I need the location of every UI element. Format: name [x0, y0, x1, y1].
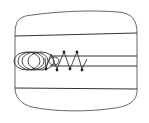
- stitch-diagram: [0, 0, 149, 123]
- stitch-node: [76, 51, 79, 54]
- stitch-node: [81, 69, 84, 72]
- stitch-node: [56, 69, 59, 72]
- stitch-node: [63, 51, 66, 54]
- stitch-node: [69, 68, 72, 71]
- lower-wall-line: [15, 88, 137, 89]
- upper-wall-line: [15, 33, 137, 36]
- outer-body-outline: [15, 11, 137, 111]
- wall-lines: [15, 33, 137, 89]
- diagram-canvas: [0, 0, 149, 123]
- stacked-loops: [14, 52, 59, 70]
- stitch-node: [45, 68, 48, 71]
